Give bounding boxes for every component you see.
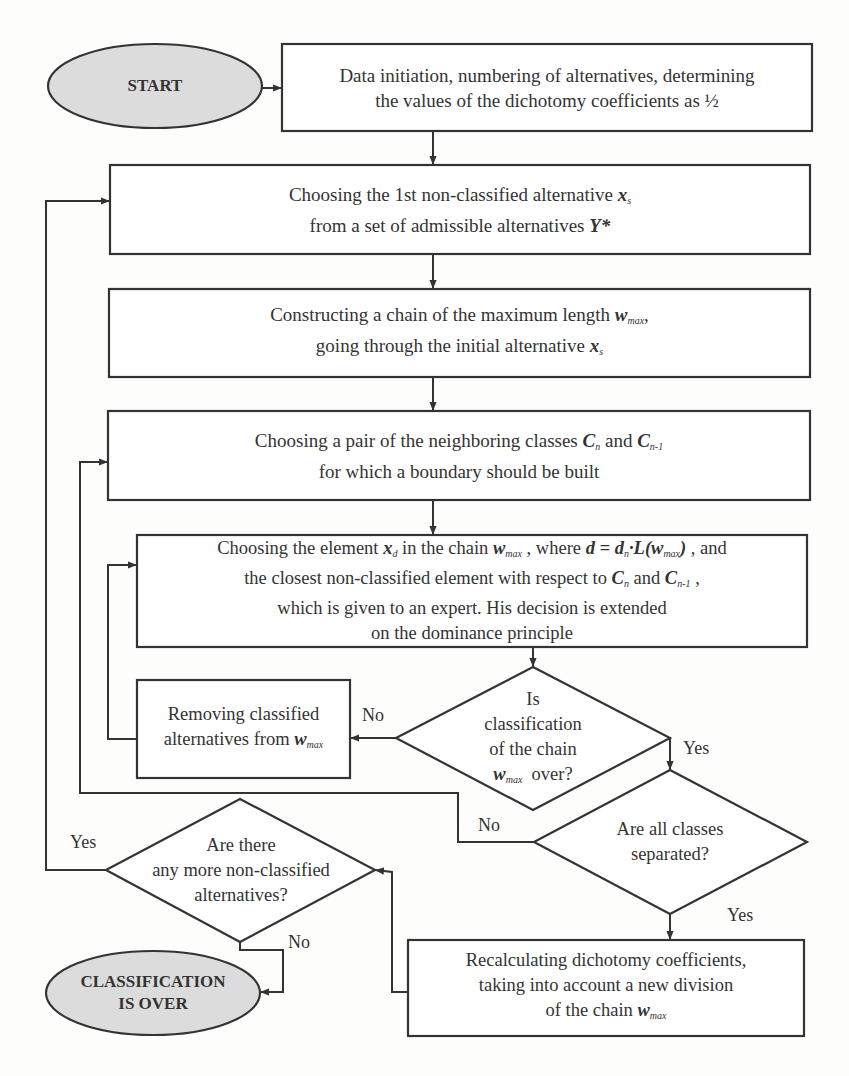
decision-line: Are all classes (617, 817, 724, 842)
decision-line: Is (484, 687, 582, 712)
var-w: w (493, 538, 505, 558)
choose-first-box: Choosing the 1st non-classified alternat… (110, 165, 810, 254)
decision-line: separated? (617, 842, 724, 867)
var-w: w (615, 304, 628, 325)
edge-label-more-no: No (288, 932, 310, 953)
remove-box: Removing classified alternatives from wm… (137, 680, 350, 778)
var-x: x (618, 184, 628, 205)
recalc-box: Recalculating dichotomy coefficients, ta… (408, 940, 804, 1036)
var-x: x (590, 335, 600, 356)
remove-line2: alternatives from wmax (164, 727, 324, 757)
sub-max: max (506, 774, 523, 785)
construct-chain-line2: going through the initial alternative xs (270, 333, 649, 364)
choose-element-box: Choosing the element xd in the chain wma… (137, 535, 807, 647)
choose-pair-line2: for which a boundary should be built (255, 459, 663, 484)
recalc-line3: of the chain wmax (466, 998, 747, 1028)
choose-first-line2-text: from a set of admissible alternatives (310, 215, 590, 236)
var-c: C (665, 568, 677, 588)
end-label-line2: IS OVER (80, 993, 225, 1015)
edge-label-chain-over-yes: Yes (683, 738, 709, 759)
var-w: w (637, 1000, 649, 1020)
remove-line1: Removing classified (164, 702, 324, 727)
more-alternatives-decision: Are there any more non-classified altern… (130, 830, 352, 910)
decision-line: classification (484, 712, 582, 737)
comma: , (644, 304, 649, 325)
start-terminal: START (48, 44, 262, 128)
choose-first-line2: from a set of admissible alternatives Y* (289, 213, 631, 238)
edge-label-chain-over-no: No (362, 705, 384, 726)
choose-element-line2: the closest non-classified element with … (217, 566, 727, 596)
init-box: Data initiation, numbering of alternativ… (282, 44, 812, 131)
var-y-star: Y* (589, 215, 610, 236)
var-c: C (583, 430, 596, 451)
text: Choosing the element (217, 538, 383, 558)
text: of the chain (546, 1000, 638, 1020)
construct-chain-line2-text: going through the initial alternative (316, 335, 590, 356)
decision-line: wmax over? (484, 762, 582, 792)
sub-s: s (599, 346, 603, 357)
choose-pair-box: Choosing a pair of the neighboring class… (108, 411, 810, 500)
text: , where (522, 538, 586, 558)
var-w: w (294, 729, 306, 749)
start-label: START (128, 75, 183, 97)
var-w: w (493, 764, 505, 784)
decision-line: Are there (152, 833, 330, 858)
sub-max: max (505, 548, 522, 559)
and-text: and (600, 430, 637, 451)
sub-n-1: n-1 (677, 578, 690, 589)
edge-label-more-yes: Yes (70, 832, 96, 853)
end-label-line1: CLASSIFICATION (80, 971, 225, 993)
choose-element-line1: Choosing the element xd in the chain wma… (217, 536, 727, 566)
recalc-line2: taking into account a new division (466, 973, 747, 998)
choose-pair-line1-text: Choosing a pair of the neighboring class… (255, 430, 583, 451)
classes-separated-decision: Are all classes separated? (570, 810, 770, 874)
construct-chain-box: Constructing a chain of the maximum leng… (109, 289, 810, 377)
formula: ·L(w (629, 538, 663, 558)
choose-first-line1-text: Choosing the 1st non-classified alternat… (289, 184, 618, 205)
sub-n-1: n-1 (650, 441, 663, 452)
formula: d = d (586, 538, 624, 558)
sub-max: max (650, 1010, 667, 1021)
text: , and (686, 538, 727, 558)
sub-max: max (307, 739, 324, 750)
recalc-line1: Recalculating dichotomy coefficients, (466, 948, 747, 973)
text: alternatives from (164, 729, 294, 749)
decision-line: alternatives? (152, 883, 330, 908)
sub-max: max (663, 548, 680, 559)
var-x: x (383, 538, 392, 558)
var-c: C (612, 568, 624, 588)
flowchart-canvas: START Data initiation, numbering of alte… (0, 0, 849, 1076)
decision-line: of the chain (484, 737, 582, 762)
edge-label-separated-no: No (478, 815, 500, 836)
init-box-line1: Data initiation, numbering of alternativ… (339, 63, 754, 88)
construct-chain-line1-text: Constructing a chain of the maximum leng… (270, 304, 615, 325)
text: in the chain (397, 538, 493, 558)
text: over? (522, 764, 572, 784)
construct-chain-line1: Constructing a chain of the maximum leng… (270, 302, 649, 333)
text: and (629, 568, 665, 588)
end-terminal: CLASSIFICATION IS OVER (46, 951, 260, 1035)
edge-label-separated-yes: Yes (727, 905, 753, 926)
sub-max: max (627, 315, 644, 326)
decision-line: any more non-classified (152, 858, 330, 883)
choose-element-line3: which is given to an expert. His decisio… (217, 596, 727, 621)
text: , (691, 568, 700, 588)
init-box-line2: the values of the dichotomy coefficients… (339, 88, 754, 113)
choose-element-line4: on the dominance principle (217, 621, 727, 646)
chain-over-decision: Is classification of the chain wmax over… (440, 672, 626, 806)
sub-s: s (627, 195, 631, 206)
var-c: C (637, 430, 650, 451)
text: the closest non-classified element with … (244, 568, 611, 588)
choose-pair-line1: Choosing a pair of the neighboring class… (255, 428, 663, 459)
choose-first-line1: Choosing the 1st non-classified alternat… (289, 182, 631, 213)
